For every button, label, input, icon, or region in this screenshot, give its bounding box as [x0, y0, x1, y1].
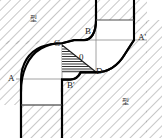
label-point-b-prime: B' — [67, 81, 75, 90]
label-point-d: D — [96, 67, 103, 76]
label-origin: 0 — [79, 53, 84, 62]
figure-canvas: A A' B B' C D 0 型 型 — [0, 0, 162, 138]
label-point-c: C — [54, 39, 60, 48]
diagram-svg — [0, 0, 162, 138]
label-die-upper: 型 — [30, 16, 37, 23]
label-point-a: A — [8, 74, 15, 83]
label-die-lower: 型 — [122, 99, 129, 106]
label-point-a-prime: A' — [138, 33, 146, 42]
label-point-b: B — [85, 27, 91, 36]
